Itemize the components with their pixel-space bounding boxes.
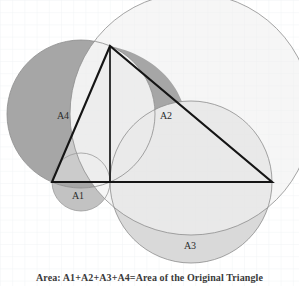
- region-label-A3: A3: [184, 240, 196, 251]
- region-label-A4: A4: [57, 110, 69, 121]
- lune-diagram-figure: A4 A2 A1 A3: [0, 0, 299, 286]
- region-label-A2: A2: [160, 110, 172, 121]
- figure-caption: Area: A1+A2+A3+A4=Area of the Original T…: [0, 272, 299, 283]
- geometry-canvas: A4 A2 A1 A3: [0, 0, 299, 286]
- region-label-A1: A1: [72, 190, 84, 201]
